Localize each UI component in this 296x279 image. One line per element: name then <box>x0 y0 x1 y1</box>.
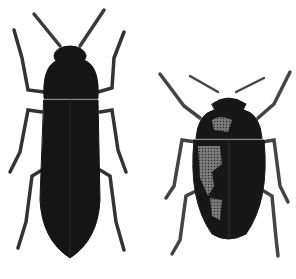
oval-beetle <box>160 72 290 256</box>
beetle-illustration <box>0 0 296 279</box>
elongated-beetle <box>10 10 126 258</box>
